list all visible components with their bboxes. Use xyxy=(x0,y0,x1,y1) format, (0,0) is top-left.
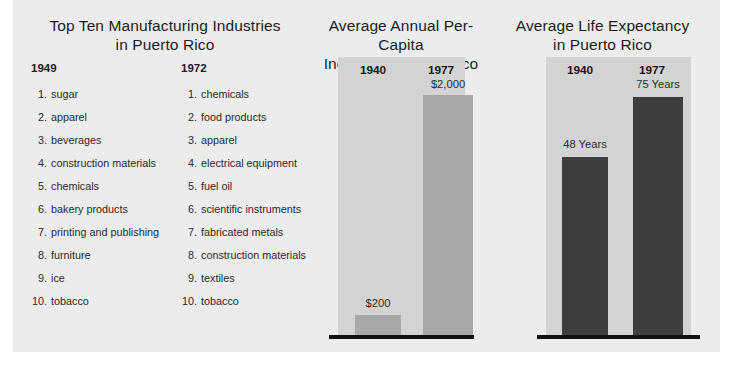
list-item: 7.printing and publishing xyxy=(25,221,165,244)
list-item-label: sugar xyxy=(51,88,78,100)
list-item-label: chemicals xyxy=(51,180,99,192)
industries-title-line-2: in Puerto Rico xyxy=(23,35,307,54)
life-bar-1977 xyxy=(633,97,683,337)
list-item: 10.tobacco xyxy=(175,290,317,313)
list-item-label: tobacco xyxy=(51,295,89,307)
list-item-number: 4. xyxy=(175,152,197,175)
list-item-label: apparel xyxy=(51,111,87,123)
industries-column-1972: 1972 1.chemicals 2.food products 3.appar… xyxy=(165,62,317,313)
list-item-number: 3. xyxy=(175,129,197,152)
list-item-number: 10. xyxy=(25,290,47,313)
list-item-number: 8. xyxy=(25,244,47,267)
list-item-label: electrical equipment xyxy=(201,157,297,169)
life-bar-1940 xyxy=(562,157,608,337)
life-bars-container xyxy=(546,57,691,337)
list-item: 6.scientific instruments xyxy=(175,198,317,221)
income-bar-1977 xyxy=(423,95,473,337)
life-axis-baseline xyxy=(537,335,700,339)
income-bar-1940 xyxy=(355,315,401,337)
income-bars-container xyxy=(338,57,465,337)
list-item-number: 9. xyxy=(175,267,197,290)
life-title-line-2: in Puerto Rico xyxy=(485,35,720,54)
list-item-number: 6. xyxy=(25,198,47,221)
list-item: 2.food products xyxy=(175,106,317,129)
list-item: 10.tobacco xyxy=(25,290,165,313)
list-item-number: 10. xyxy=(175,290,197,313)
list-item-label: furniture xyxy=(51,249,91,261)
infographic-canvas: Top Ten Manufacturing Industries in Puer… xyxy=(13,0,720,352)
list-item-label: apparel xyxy=(201,134,237,146)
list-item-number: 5. xyxy=(25,175,47,198)
industries-title: Top Ten Manufacturing Industries in Puer… xyxy=(13,16,317,54)
list-item: 2.apparel xyxy=(25,106,165,129)
list-item-number: 2. xyxy=(175,106,197,129)
list-item: 3.apparel xyxy=(175,129,317,152)
list-item: 5.fuel oil xyxy=(175,175,317,198)
list-item-label: ice xyxy=(51,272,65,284)
list-item: 1.chemicals xyxy=(175,83,317,106)
list-item: 1.sugar xyxy=(25,83,165,106)
list-item: 8.furniture xyxy=(25,244,165,267)
list-item: 4.construction materials xyxy=(25,152,165,175)
list-item: 4.electrical equipment xyxy=(175,152,317,175)
industries-title-line-1: Top Ten Manufacturing Industries xyxy=(23,16,307,35)
list-item: 6.bakery products xyxy=(25,198,165,221)
list-item-label: textiles xyxy=(201,272,235,284)
list-item-number: 1. xyxy=(25,83,47,106)
list-item: 9.ice xyxy=(25,267,165,290)
list-item-label: food products xyxy=(201,111,266,123)
industry-list-1972: 1.chemicals 2.food products 3.apparel 4.… xyxy=(175,83,317,313)
income-axis-baseline xyxy=(329,335,474,339)
life-chart-title: Average Life Expectancy in Puerto Rico xyxy=(485,16,720,54)
list-item-label: chemicals xyxy=(201,88,249,100)
list-item-number: 3. xyxy=(25,129,47,152)
life-title-line-1: Average Life Expectancy xyxy=(485,16,720,35)
panel-life-expectancy-chart: Average Life Expectancy in Puerto Rico 1… xyxy=(485,0,720,352)
list-item-number: 8. xyxy=(175,244,197,267)
list-item-label: construction materials xyxy=(201,249,306,261)
industries-column-1949: 1949 1.sugar 2.apparel 3.beverages 4.con… xyxy=(13,62,165,313)
column-year-1972: 1972 xyxy=(175,62,317,74)
list-item-number: 6. xyxy=(175,198,197,221)
list-item: 9.textiles xyxy=(175,267,317,290)
industry-list-1949: 1.sugar 2.apparel 3.beverages 4.construc… xyxy=(25,83,165,313)
list-item: 8.construction materials xyxy=(175,244,317,267)
list-item-number: 7. xyxy=(175,221,197,244)
list-item: 3.beverages xyxy=(25,129,165,152)
list-item-label: bakery products xyxy=(51,203,128,215)
list-item-label: construction materials xyxy=(51,157,156,169)
list-item-number: 9. xyxy=(25,267,47,290)
list-item-number: 1. xyxy=(175,83,197,106)
list-item-number: 2. xyxy=(25,106,47,129)
list-item-label: fabricated metals xyxy=(201,226,283,238)
list-item: 7.fabricated metals xyxy=(175,221,317,244)
panel-per-capita-income-chart: Average Annual Per-Capita Income in Puer… xyxy=(317,0,485,352)
list-item: 5.chemicals xyxy=(25,175,165,198)
income-title-line-1: Average Annual Per-Capita xyxy=(311,16,491,54)
industries-columns: 1949 1.sugar 2.apparel 3.beverages 4.con… xyxy=(13,62,317,313)
list-item-number: 7. xyxy=(25,221,47,244)
list-item-label: tobacco xyxy=(201,295,239,307)
column-year-1949: 1949 xyxy=(25,62,165,74)
list-item-label: printing and publishing xyxy=(51,226,159,238)
list-item-number: 4. xyxy=(25,152,47,175)
list-item-label: fuel oil xyxy=(201,180,232,192)
list-item-label: beverages xyxy=(51,134,101,146)
panel-top-ten-industries: Top Ten Manufacturing Industries in Puer… xyxy=(13,0,317,352)
list-item-number: 5. xyxy=(175,175,197,198)
list-item-label: scientific instruments xyxy=(201,203,301,215)
